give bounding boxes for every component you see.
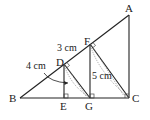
measure-DF: 3 cm: [57, 42, 77, 53]
right-angle-E: [64, 94, 68, 98]
arrowhead-icon: [64, 81, 68, 85]
label-C: C: [132, 92, 139, 104]
label-D: D: [56, 56, 64, 68]
right-angle-G: [90, 94, 94, 98]
label-F: F: [84, 35, 90, 47]
segment-BA: [20, 15, 129, 98]
measure-BD: 4 cm: [26, 60, 46, 71]
label-E: E: [60, 100, 67, 112]
measure-FG: 5 cm: [92, 70, 112, 81]
label-B: B: [9, 92, 16, 104]
geometry-diagram: A B C D E F G 3 cm 4 cm 5 cm: [0, 0, 150, 120]
label-G: G: [85, 100, 93, 112]
segment-DG: [64, 64, 90, 98]
right-angle-F: [93, 42, 96, 48]
label-A: A: [125, 2, 133, 14]
right-angle-D: [67, 62, 70, 68]
